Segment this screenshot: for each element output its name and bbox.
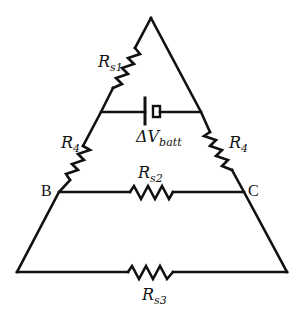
label-rs2: Rs2 bbox=[138, 165, 163, 181]
label-r4-left: R4 bbox=[61, 135, 80, 151]
battery-branch bbox=[101, 98, 201, 124]
circuit-diagram: Rs1 R4 R4 ΔVbatt Rs2 Rs3 B C bbox=[0, 0, 303, 316]
label-battery: ΔVbatt bbox=[136, 129, 182, 145]
resistor-rs3 bbox=[128, 266, 173, 279]
label-r4-right: R4 bbox=[229, 135, 248, 151]
circuit-drawing bbox=[0, 0, 303, 316]
label-rs3: Rs3 bbox=[142, 287, 167, 303]
resistor-rs2 bbox=[130, 186, 173, 199]
node-label-c: C bbox=[248, 183, 259, 199]
rs2-branch bbox=[59, 186, 244, 199]
label-rs1: Rs1 bbox=[98, 54, 123, 70]
rs3-branch bbox=[17, 266, 287, 279]
left-edge-wire bbox=[17, 18, 151, 272]
node-label-b: B bbox=[41, 183, 52, 199]
resistor-r4-right bbox=[204, 132, 232, 170]
